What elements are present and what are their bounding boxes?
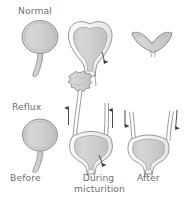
kidney-dilated	[68, 71, 92, 92]
row-label-normal: Normal	[18, 5, 52, 16]
bladder-normal-before	[22, 21, 58, 54]
right-ureter-after-wall	[170, 112, 174, 142]
left-ureter-after	[130, 112, 133, 141]
vesicoureteral-reflux-diagram	[0, 0, 187, 197]
panel-reflux-before	[23, 119, 58, 173]
bladder-lumen-reflux-after	[133, 139, 165, 170]
bladder-reflux-before	[23, 119, 58, 151]
panel-reflux-after	[125, 110, 177, 176]
right-ureter-return-arrow	[176, 110, 178, 128]
panel-reflux-during	[68, 71, 113, 176]
right-ureter-wall	[108, 103, 109, 139]
column-label-before: Before	[10, 172, 41, 183]
column-label-after: After	[137, 172, 160, 183]
panel-normal-before	[22, 21, 58, 77]
left-ureter-after-wall	[133, 112, 136, 142]
column-label-during: During micturition	[72, 172, 125, 194]
bladder-urethra-normal-before	[33, 52, 43, 77]
right-ureter-after	[167, 111, 171, 141]
bladder-lumen-normal-during	[73, 27, 107, 71]
column-label-during-line1: During	[83, 172, 114, 183]
panel-normal-after	[132, 32, 172, 57]
bladder-urethra-reflux-before	[33, 150, 43, 173]
bladder-lumen-reflux-during	[74, 136, 107, 170]
row-label-reflux: Reflux	[12, 101, 41, 112]
column-label-during-line2: micturition	[74, 183, 125, 194]
left-ureter-dilated	[73, 90, 79, 138]
